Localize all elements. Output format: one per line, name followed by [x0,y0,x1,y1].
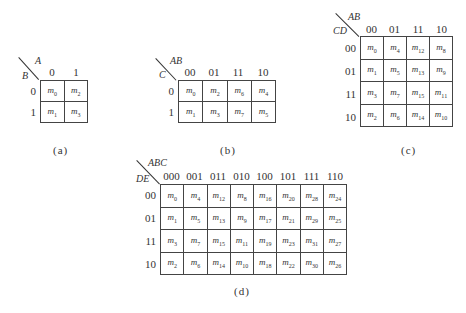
row-label: 11 [338,89,356,100]
cell-m4: m4 [384,37,407,60]
cell-m3: m3 [361,82,384,105]
cell-m19: m19 [254,230,277,253]
cell-m16: m16 [254,185,277,208]
cell-m7: m7 [384,82,407,105]
row-label: 0 [20,86,36,97]
cell-m0: m0 [161,185,184,208]
column-label: 100 [253,171,276,182]
cell-m29: m29 [300,207,323,230]
column-label: 1 [64,67,88,78]
cell-m15: m15 [407,82,430,105]
cell-m0: m0 [41,81,65,102]
cell-m27: m27 [323,230,346,253]
cell-m8: m8 [430,37,453,60]
cell-m1: m1 [41,102,65,123]
cell-m2: m2 [64,81,88,102]
cell-m6: m6 [384,104,407,127]
cell-m25: m25 [323,207,346,230]
cell-m4: m4 [251,81,275,102]
column-variable: A [35,56,41,66]
row-label: 01 [338,66,356,77]
column-label: 10 [430,24,453,35]
row-label: 00 [338,43,356,54]
cell-m13: m13 [207,207,230,230]
row-label: 10 [138,259,156,270]
row-variable: C [159,70,166,80]
column-label: 110 [323,171,347,182]
kmap-grid: m0 m4 m12 m8 m1 m5 m13 m9 m3 m7 m15 m11 … [360,36,453,127]
row-label: 1 [20,107,36,118]
cell-m28: m28 [300,185,323,208]
cell-m15: m15 [207,230,230,253]
caption-d: (d) [234,285,250,297]
cell-m20: m20 [277,185,300,208]
column-label: 0 [40,67,64,78]
cell-m5: m5 [384,59,407,82]
kmap-grid: m0 m4 m12 m8 m16 m20 m28 m24 m1 m5 m13 m… [160,184,347,275]
cell-m1: m1 [161,207,184,230]
kmap-grid: m0m2 m1m3 [40,80,88,123]
column-label: 11 [226,67,250,78]
row-variable: DE [136,174,149,184]
cell-m1: m1 [179,102,203,123]
cell-m0: m0 [361,37,384,60]
cell-m11: m11 [430,82,453,105]
cell-m21: m21 [277,207,300,230]
column-label: 101 [276,171,300,182]
cell-m6: m6 [184,252,207,275]
column-label: 000 [160,171,183,182]
row-label: 1 [158,107,174,118]
cell-m6: m6 [227,81,251,102]
column-label: 001 [183,171,206,182]
cell-m30: m30 [300,252,323,275]
column-label: 00 [360,24,383,35]
column-variable: ABC [148,158,167,168]
cell-m11: m11 [230,230,253,253]
cell-m8: m8 [230,185,253,208]
cell-m17: m17 [254,207,277,230]
cell-m2: m2 [161,252,184,275]
column-variable: AB [348,12,360,22]
cell-m26: m26 [323,252,346,275]
cell-m0: m0 [179,81,203,102]
caption-b: (b) [220,144,236,156]
cell-m5: m5 [251,102,275,123]
cell-m4: m4 [184,185,207,208]
row-label: 01 [138,213,156,224]
column-label: 01 [202,67,226,78]
row-variable: CD [333,26,347,36]
cell-m7: m7 [227,102,251,123]
caption-c: (c) [401,144,416,156]
cell-m1: m1 [361,59,384,82]
kmap-grid: m0 m2 m6 m4 m1 m3 m7 m5 [178,80,276,123]
column-label: 11 [406,24,430,35]
column-label: 010 [230,171,253,182]
column-label: 111 [300,171,323,182]
cell-m24: m24 [323,185,346,208]
cell-m12: m12 [207,185,230,208]
cell-m23: m23 [277,230,300,253]
cell-m10: m10 [430,104,453,127]
cell-m13: m13 [407,59,430,82]
cell-m14: m14 [207,252,230,275]
cell-m31: m31 [300,230,323,253]
cell-m3: m3 [203,102,227,123]
cell-m9: m9 [430,59,453,82]
column-label: 011 [206,171,230,182]
cell-m22: m22 [277,252,300,275]
cell-m14: m14 [407,104,430,127]
column-label: 10 [251,67,275,78]
cell-m7: m7 [184,230,207,253]
cell-m9: m9 [230,207,253,230]
column-label: 00 [178,67,202,78]
column-label: 01 [383,24,406,35]
cell-m3: m3 [64,102,88,123]
row-label: 11 [138,236,156,247]
cell-m12: m12 [407,37,430,60]
row-variable: B [22,71,28,81]
cell-m5: m5 [184,207,207,230]
cell-m3: m3 [161,230,184,253]
caption-a: (a) [53,144,68,156]
cell-m2: m2 [361,104,384,127]
cell-m2: m2 [203,81,227,102]
